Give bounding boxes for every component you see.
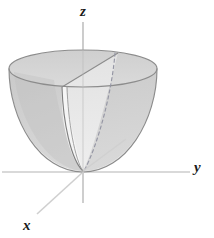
z-axis-label: z (80, 4, 86, 19)
x-axis-label: x (23, 218, 31, 233)
y-axis-label: y (194, 160, 201, 175)
paraboloid-figure: z y x (0, 0, 214, 238)
paraboloid-diagram-canvas (0, 0, 214, 238)
x-axis-line (37, 172, 83, 214)
